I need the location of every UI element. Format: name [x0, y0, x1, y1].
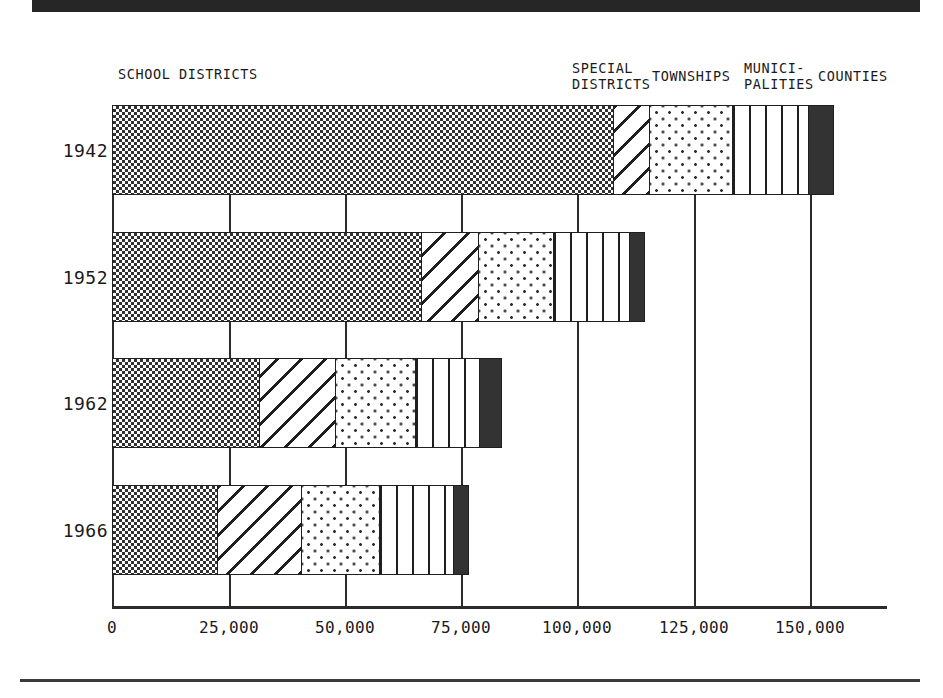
- legend-label-special-districts: SPECIAL DISTRICTS: [572, 60, 651, 92]
- segment-1952-townships: [478, 232, 554, 322]
- segment-1952-counties: [629, 232, 645, 322]
- x-tick-label-125000: 125,000: [659, 618, 729, 637]
- segment-1966-special-districts: [217, 485, 303, 575]
- x-tick-label-75000: 75,000: [431, 618, 491, 637]
- segment-1952-municipalities: [553, 232, 631, 322]
- segment-1942-townships: [649, 105, 733, 195]
- x-tick-label-50000: 50,000: [315, 618, 375, 637]
- x-tick-label-25000: 25,000: [199, 618, 259, 637]
- stacked-bar-chart: SCHOOL DISTRICTS SPECIAL DISTRICTS TOWNS…: [0, 0, 943, 698]
- segment-1962-municipalities: [415, 358, 481, 448]
- bar-1942: [112, 105, 834, 195]
- legend-label-counties: COUNTIES: [818, 68, 888, 84]
- bar-1966: [112, 485, 469, 575]
- legend-label-school-districts: SCHOOL DISTRICTS: [118, 66, 258, 82]
- category-label-1962: 1962: [38, 393, 108, 414]
- segment-1966-school-districts: [112, 485, 218, 575]
- legend-label-townships: TOWNSHIPS: [652, 68, 731, 84]
- bar-1952: [112, 232, 645, 322]
- x-tick-label-150000: 150,000: [775, 618, 845, 637]
- x-axis-line: [112, 606, 887, 609]
- segment-1966-counties: [453, 485, 469, 575]
- x-tick-label-0: 0: [107, 618, 117, 637]
- category-label-1942: 1942: [38, 140, 108, 161]
- segment-1966-townships: [301, 485, 380, 575]
- segment-1942-special-districts: [613, 105, 651, 195]
- legend-label-municipalities: MUNICI- PALITIES: [744, 60, 814, 92]
- segment-1952-special-districts: [421, 232, 480, 322]
- segment-1942-municipalities: [732, 105, 810, 195]
- segment-1962-school-districts: [112, 358, 260, 448]
- category-label-1952: 1952: [38, 267, 108, 288]
- segment-1966-municipalities: [379, 485, 455, 575]
- segment-1962-townships: [335, 358, 416, 448]
- segment-1942-counties: [808, 105, 834, 195]
- segment-1962-special-districts: [259, 358, 337, 448]
- bar-1962: [112, 358, 502, 448]
- segment-1962-counties: [479, 358, 502, 448]
- x-tick-label-100000: 100,000: [542, 618, 612, 637]
- segment-1952-school-districts: [112, 232, 422, 322]
- category-label-1966: 1966: [38, 520, 108, 541]
- segment-1942-school-districts: [112, 105, 614, 195]
